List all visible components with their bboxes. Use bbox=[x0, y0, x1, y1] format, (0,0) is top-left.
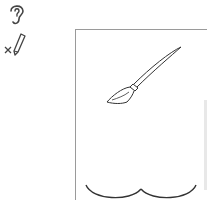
paintbrush-drawing bbox=[107, 47, 181, 104]
double-arc-drawing bbox=[86, 185, 196, 198]
drawing-canvas[interactable] bbox=[0, 0, 207, 200]
